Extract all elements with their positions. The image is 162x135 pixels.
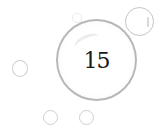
level-number: 15 xyxy=(84,48,110,73)
level-select-stage: 15 xyxy=(0,0,162,135)
left-bubble-icon xyxy=(12,60,28,77)
bottom-center-bubble-icon xyxy=(79,110,94,125)
bubble-shine xyxy=(147,17,149,27)
level-bubble-button[interactable]: 15 xyxy=(56,19,137,101)
top-right-bubble-icon xyxy=(125,7,154,36)
bottom-left-bubble-icon xyxy=(43,110,58,125)
